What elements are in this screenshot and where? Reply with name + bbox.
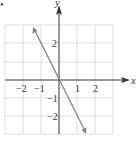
y-tick-label: −1	[47, 93, 58, 104]
x-axis-label: x	[130, 74, 136, 86]
problem-marker: •	[0, 0, 4, 10]
y-axis-label: y	[54, 0, 60, 8]
coordinate-plot: • x y −2 −1 1 2 2 −1 −2	[0, 0, 137, 147]
x-tick-label: 1	[75, 83, 80, 94]
x-tick-label: −2	[16, 83, 27, 94]
y-tick-label: 2	[52, 38, 57, 49]
x-tick-label: 2	[93, 83, 98, 94]
line-arrow-up-icon	[33, 27, 38, 34]
x-tick-label: −1	[34, 83, 45, 94]
y-tick-label: −2	[47, 111, 58, 122]
